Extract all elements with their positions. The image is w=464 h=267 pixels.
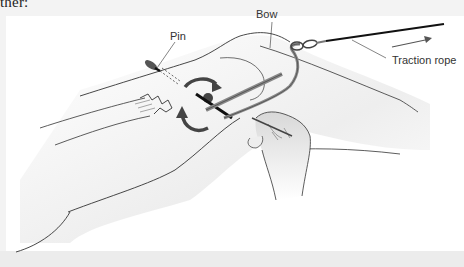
traction-rope-label: Traction rope: [392, 54, 456, 66]
rope-clip: [302, 39, 317, 49]
leg: [16, 33, 430, 252]
rope-connector: [316, 41, 326, 43]
leg-fill: [20, 35, 430, 243]
traction-rope: Traction rope: [316, 24, 456, 66]
rope-label-leader: [352, 40, 386, 58]
traction-direction-arrowhead-icon: [424, 36, 432, 43]
bow-label: Bow: [256, 8, 277, 20]
traction-direction-arrow-icon: [392, 39, 430, 47]
pin-label: Pin: [170, 30, 186, 42]
traction-illustration: Pin Bow Traction rope: [0, 0, 464, 267]
hand: [248, 112, 310, 200]
